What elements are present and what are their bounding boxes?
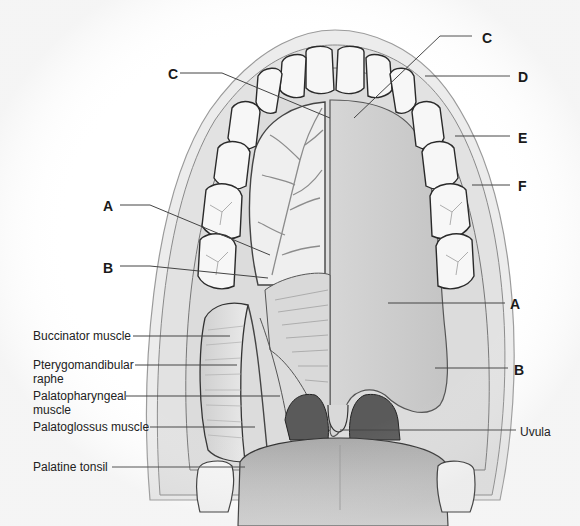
label-f: F — [518, 178, 527, 194]
label-palatopharyngeal-muscle: Palatopharyngeal muscle — [33, 389, 126, 417]
label-c-right: C — [482, 30, 492, 46]
label-palatoglossus-muscle: Palatoglossus muscle — [33, 420, 149, 434]
label-a-left: A — [103, 198, 113, 214]
label-uvula: Uvula — [520, 425, 551, 439]
label-c-left: C — [168, 66, 178, 82]
palate-illustration — [0, 0, 580, 526]
label-pterygomandibular-raphe: Pterygomandibular raphe — [33, 358, 134, 386]
label-e: E — [518, 130, 527, 146]
label-b-right: B — [514, 362, 524, 378]
label-palatine-tonsil: Palatine tonsil — [33, 460, 108, 474]
label-a-right: A — [510, 296, 520, 312]
tongue — [238, 438, 448, 526]
label-buccinator-muscle: Buccinator muscle — [33, 329, 131, 343]
label-d: D — [518, 69, 528, 85]
label-b-left: B — [103, 260, 113, 276]
